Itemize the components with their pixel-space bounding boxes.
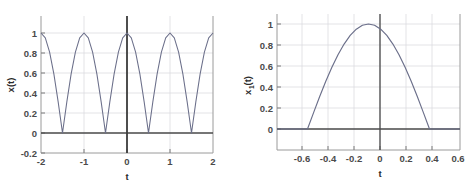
right-ytick-label: 0.4 bbox=[260, 82, 274, 93]
left-xtick-label: 0 bbox=[124, 156, 129, 167]
left-ytick-label: -0.2 bbox=[21, 148, 37, 159]
left-xtick-label: -1 bbox=[80, 156, 89, 167]
right-plot-yaxis-title: x 1 (t) bbox=[242, 76, 255, 95]
left-plot-ytick-marks bbox=[41, 33, 45, 153]
right-plot-xtick-marks bbox=[302, 146, 432, 150]
right-xtick-label: 0.2 bbox=[399, 153, 412, 164]
right-xtick-label: 0.6 bbox=[451, 153, 464, 164]
right-xtick-label: -0.6 bbox=[294, 153, 310, 164]
left-xtick-label: 1 bbox=[167, 156, 173, 167]
right-plot-panel: 1 0.8 0.6 0.4 0.2 0 -0.6 -0.4 -0.2 0 0.2… bbox=[237, 0, 474, 189]
right-plot-xtick-labels: -0.6 -0.4 -0.2 0 0.2 0.4 0.6 bbox=[294, 153, 465, 164]
right-ytick-label: 0.8 bbox=[260, 40, 273, 51]
left-ytick-label: 0.6 bbox=[24, 68, 37, 79]
left-plot-xaxis-title: t bbox=[125, 171, 129, 182]
figure-root: 1 0.8 0.6 0.4 0.2 0 -0.2 -2 -1 0 1 2 t x… bbox=[0, 0, 474, 189]
left-ytick-label: 0 bbox=[32, 128, 37, 139]
right-xtick-label: 0.4 bbox=[425, 153, 439, 164]
right-plot-curve bbox=[277, 24, 460, 129]
right-plot-xaxis-title: t bbox=[378, 168, 382, 179]
right-plot-svg: 1 0.8 0.6 0.4 0.2 0 -0.6 -0.4 -0.2 0 0.2… bbox=[237, 0, 474, 189]
left-plot-panel: 1 0.8 0.6 0.4 0.2 0 -0.2 -2 -1 0 1 2 t x… bbox=[0, 0, 237, 189]
left-plot-ytick-labels: 1 0.8 0.6 0.4 0.2 0 -0.2 bbox=[21, 28, 38, 159]
left-ytick-label: 0.4 bbox=[24, 88, 38, 99]
right-xtick-label: -0.4 bbox=[320, 153, 337, 164]
right-xtick-label: 0 bbox=[377, 153, 382, 164]
left-plot-svg: 1 0.8 0.6 0.4 0.2 0 -0.2 -2 -1 0 1 2 t x… bbox=[0, 0, 237, 189]
right-plot-horizontal-gridlines bbox=[277, 24, 460, 129]
right-ytick-label: 0.2 bbox=[260, 103, 273, 114]
left-ytick-label: 0.2 bbox=[24, 108, 37, 119]
left-plot-xtick-labels: -2 -1 0 1 2 bbox=[37, 156, 216, 167]
right-ytick-label: 0.6 bbox=[260, 61, 273, 72]
left-xtick-label: -2 bbox=[37, 156, 45, 167]
right-xtick-label: -0.2 bbox=[346, 153, 362, 164]
right-plot-ytick-marks bbox=[277, 24, 281, 129]
right-ytick-label: 1 bbox=[268, 19, 274, 30]
left-plot-yaxis-title: x(t) bbox=[5, 78, 16, 93]
right-ytick-label: 0 bbox=[268, 124, 273, 135]
left-ytick-label: 0.8 bbox=[24, 48, 37, 59]
left-xtick-label: 2 bbox=[210, 156, 215, 167]
left-ytick-label: 1 bbox=[32, 28, 38, 39]
right-plot-yaxis-title-tail: (t) bbox=[242, 76, 253, 86]
right-plot-ytick-labels: 1 0.8 0.6 0.4 0.2 0 bbox=[260, 19, 274, 135]
